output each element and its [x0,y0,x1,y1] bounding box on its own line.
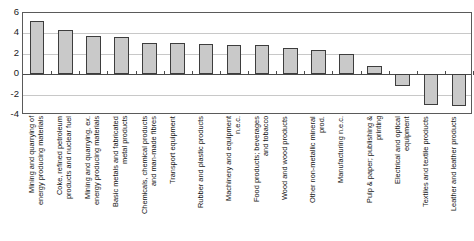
x-tick-mark [332,71,333,75]
bar [367,66,382,74]
category-label: Pulp & paper; publishing & printing [366,116,383,239]
x-tick-mark [248,71,249,75]
x-tick-mark [276,71,277,75]
bar [86,36,101,74]
category-label: Chemicals, chemical products and man-mad… [141,116,158,239]
x-tick-mark [220,71,221,75]
y-tick-label: 4 [14,28,19,38]
bar [199,44,214,74]
category-label: Food products; beverages and tobacco [253,116,270,239]
bar [114,37,129,74]
category-label: Electrical and optical equipment [394,116,411,239]
bar-chart: 6420-2-4 Mining and quarrying of energy … [0,0,474,241]
x-tick-mark [445,71,446,75]
x-axis-category-labels: Mining and quarrying of energy producing… [22,116,472,241]
category-label: Wood and wood products [281,116,290,239]
category-label: Mining and quarrying of energy producing… [28,116,45,239]
y-tick-label: 0 [14,68,19,78]
x-tick-mark [79,71,80,75]
x-tick-mark [107,71,108,75]
category-label: Mining and quarrying, ex. energy produci… [84,116,101,239]
plot-area [22,12,472,114]
bar [339,54,354,74]
y-axis: 6420-2-4 [0,0,22,120]
x-tick-mark [417,71,418,75]
category-label: Machinery and equipment n.e.c. [225,116,242,239]
y-tick-label: 6 [14,7,19,17]
category-label: Leather and leather products [450,116,459,239]
bar [311,50,326,74]
x-tick-mark [51,71,52,75]
x-tick-mark [192,71,193,75]
x-tick-mark [361,71,362,75]
bar [395,74,410,86]
bar [227,45,242,75]
bar [30,21,45,74]
bar [142,43,157,74]
bar [170,43,185,74]
y-tick-label: 2 [14,48,19,58]
bars-layer [23,13,471,113]
bar [58,30,73,74]
x-tick-mark [304,71,305,75]
x-tick-mark [164,71,165,75]
category-label: Manufacturing n.e.c. [337,116,346,239]
bar [255,45,270,75]
category-label: Rubber and plastic products [197,116,206,239]
category-label: Basic metals and fabricated metal produc… [112,116,129,239]
bar [424,74,439,105]
y-tick-label: -2 [11,89,19,99]
y-tick-label: -4 [11,109,19,119]
bar [452,74,467,106]
category-label: Textiles and textile products [422,116,431,239]
plot-region: 6420-2-4 [0,0,474,120]
x-tick-mark [389,71,390,75]
category-label: Coke, refined petroleum products and nuc… [56,116,73,239]
category-label: Other non-metallic mineral prod. [309,116,326,239]
x-tick-mark [136,71,137,75]
bar [283,48,298,75]
category-label: Transport equipment [169,116,178,239]
